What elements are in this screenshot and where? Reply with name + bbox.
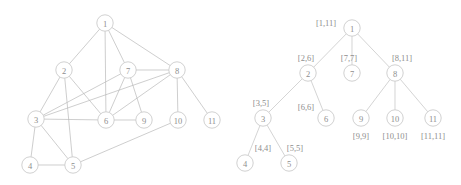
graph-edge-6-8 (113, 75, 171, 116)
graph-edge-1-8 (112, 27, 170, 65)
interval-label-4: [4,4] (255, 143, 271, 153)
graph-edge-1-7 (109, 30, 125, 62)
graph-node-6[interactable]: 6 (98, 112, 114, 128)
graph-edge-3-5 (41, 125, 68, 158)
interval-label-3: [3,5] (253, 98, 269, 108)
graph-node-label-7: 7 (126, 66, 130, 76)
tree-node-8[interactable]: 8 (387, 65, 403, 81)
graph-edge-3-4 (31, 127, 35, 157)
interval-label-11: [11,11] (421, 131, 445, 141)
graph-node-8[interactable]: 8 (169, 62, 185, 78)
tree-node-2[interactable]: 2 (300, 65, 316, 81)
tree-node-7[interactable]: 7 (344, 65, 360, 81)
tree-node-3[interactable]: 3 (255, 110, 271, 126)
figure-container: 1234567891011 [1,11][2,6][7,7][8,11][3,5… (0, 0, 461, 185)
graph-node-label-6: 6 (104, 116, 108, 126)
tree-node-label-2: 2 (306, 69, 310, 79)
interval-label-7: [7,7] (341, 53, 357, 63)
graph-edge-8-10 (177, 78, 178, 112)
tree-interval-label-layer: [1,11][2,6][7,7][8,11][3,5][6,6][4,4][5,… (253, 18, 445, 153)
graph-node-1[interactable]: 1 (97, 15, 113, 31)
interval-label-9: [9,9] (353, 131, 369, 141)
tree-node-label-1: 1 (350, 24, 354, 34)
graph-node-label-10: 10 (174, 116, 183, 126)
interval-tree-panel: [1,11][2,6][7,7][8,11][3,5][6,6][4,4][5,… (230, 0, 461, 185)
interval-label-2: [2,6] (298, 53, 314, 63)
tree-node-label-3: 3 (261, 114, 265, 124)
tree-edge-8-9 (366, 80, 390, 112)
tree-node-label-11: 11 (429, 114, 437, 124)
graph-edge-2-3 (40, 77, 60, 112)
graph-node-4[interactable]: 4 (22, 157, 38, 173)
tree-node-label-10: 10 (391, 114, 400, 124)
graph-node-label-1: 1 (103, 19, 107, 29)
tree-node-label-8: 8 (393, 69, 397, 79)
graph-node-11[interactable]: 11 (204, 112, 220, 128)
graph-node-5[interactable]: 5 (65, 157, 81, 173)
graph-node-label-3: 3 (34, 115, 38, 125)
tree-edge-8-11 (400, 79, 427, 111)
graph-edge-2-6 (69, 76, 100, 113)
graph-node-label-9: 9 (142, 116, 146, 126)
graph-node-10[interactable]: 10 (170, 112, 186, 128)
tree-node-label-7: 7 (350, 69, 354, 79)
undirected-graph-panel: 1234567891011 (0, 0, 230, 185)
tree-edge-1-8 (358, 34, 390, 67)
interval-label-6: [6,6] (298, 102, 314, 112)
tree-node-11[interactable]: 11 (425, 110, 441, 126)
graph-node-7[interactable]: 7 (120, 62, 136, 78)
interval-label-5: [5,5] (287, 143, 303, 153)
graph-edge-1-2 (69, 29, 99, 64)
graph-node-label-5: 5 (71, 161, 75, 171)
graph-edge-6-7 (109, 78, 124, 113)
tree-node-4[interactable]: 4 (237, 155, 253, 171)
tree-node-6[interactable]: 6 (318, 110, 334, 126)
graph-edge-2-5 (65, 78, 72, 157)
tree-node-1[interactable]: 1 (344, 20, 360, 36)
tree-node-label-9: 9 (359, 114, 363, 124)
graph-edge-3-8 (44, 73, 170, 117)
interval-label-1: [1,11] (316, 18, 336, 28)
tree-node-label-5: 5 (287, 159, 291, 169)
graph-node-label-8: 8 (175, 66, 179, 76)
graph-edge-8-11 (182, 77, 208, 114)
graph-edge-1-6 (105, 31, 106, 112)
graph-node-3[interactable]: 3 (28, 111, 44, 127)
graph-node-layer: 1234567891011 (22, 15, 220, 173)
graph-edge-5-10 (81, 123, 171, 162)
tree-node-9[interactable]: 9 (353, 110, 369, 126)
graph-node-label-2: 2 (62, 66, 66, 76)
graph-node-2[interactable]: 2 (56, 62, 72, 78)
tree-node-label-6: 6 (324, 114, 328, 124)
graph-node-9[interactable]: 9 (136, 112, 152, 128)
interval-label-10: [10,10] (383, 131, 408, 141)
graph-edge-layer (31, 27, 207, 165)
tree-node-5[interactable]: 5 (281, 155, 297, 171)
graph-edge-3-7 (43, 74, 121, 115)
graph-edge-3-6 (44, 119, 98, 120)
tree-node-10[interactable]: 10 (387, 110, 403, 126)
interval-label-8: [8,11] (392, 53, 412, 63)
graph-node-label-11: 11 (208, 116, 216, 126)
